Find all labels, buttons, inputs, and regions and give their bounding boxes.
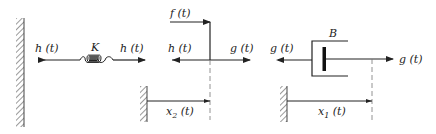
damper-left-force-label: g (t) xyxy=(270,42,294,55)
x1-displacement-label: x1 (t) xyxy=(318,105,346,120)
damper-piston-icon xyxy=(323,47,327,71)
spring-constant-label: K xyxy=(90,41,100,54)
spring-right-force-label: h (t) xyxy=(120,42,144,55)
spring-element: h (t) K h (t) xyxy=(35,41,145,63)
mass-node: f (t) h (t) g (t) x2 (t) xyxy=(140,7,254,122)
arrowhead-left-icon xyxy=(276,57,284,63)
arrowhead-left-icon xyxy=(172,57,180,63)
x2-ground xyxy=(140,86,147,122)
damping-coefficient-label: B xyxy=(328,27,337,40)
arrowhead-left-icon xyxy=(38,57,46,63)
spring-left-force-label: h (t) xyxy=(35,42,59,55)
free-body-diagram: h (t) K h (t) f (t) h (t) g (t) x2 (t) g… xyxy=(0,0,436,134)
damper-element: g (t) B g (t) x1 (t) xyxy=(270,27,423,122)
node-right-force-label: g (t) xyxy=(230,42,254,55)
left-wall-ground xyxy=(16,18,24,127)
applied-force-label: f (t) xyxy=(169,7,191,20)
x1-ground xyxy=(280,86,287,122)
x2-displacement-label: x2 (t) xyxy=(166,105,194,120)
spring-coil-icon xyxy=(80,55,113,63)
node-left-force-label: h (t) xyxy=(168,42,192,55)
damper-right-force-label: g (t) xyxy=(399,53,423,66)
